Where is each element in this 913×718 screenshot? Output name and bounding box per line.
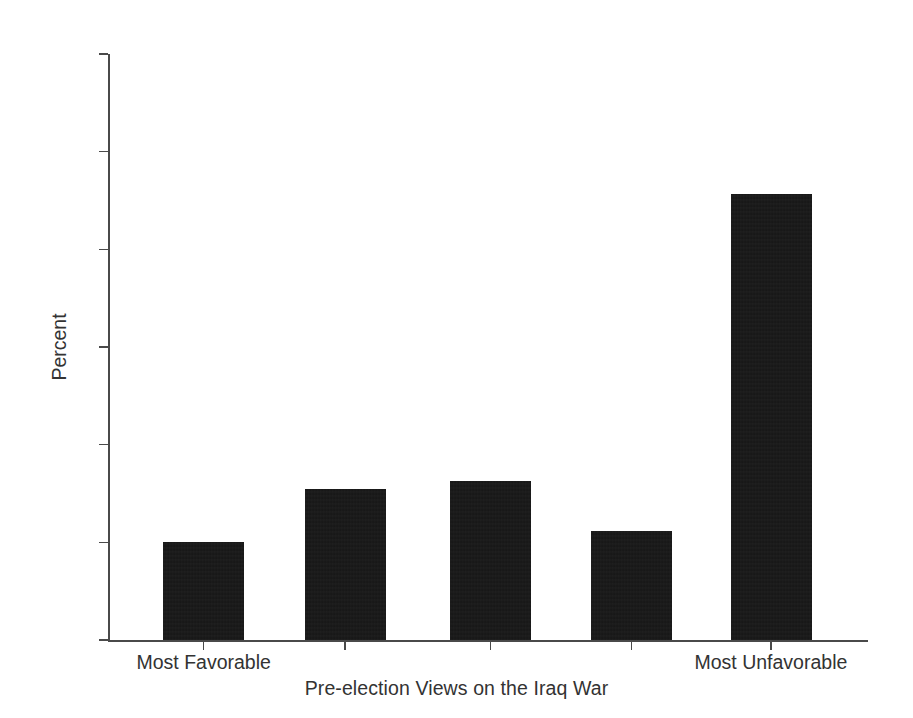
y-axis-tick [99, 346, 108, 348]
y-axis-tick [99, 639, 108, 641]
y-axis-tick [99, 444, 108, 446]
x-axis-tick [631, 641, 633, 650]
category-label: Most Unfavorable [695, 651, 848, 674]
plot-area [109, 54, 868, 640]
x-axis-title: Pre-election Views on the Iraq War [0, 677, 913, 700]
y-axis-tick [99, 53, 108, 55]
category-label: Most Favorable [137, 651, 271, 674]
y-axis-tick [99, 151, 108, 153]
bar [163, 542, 244, 640]
bar [305, 489, 386, 640]
x-axis-tick [344, 641, 346, 650]
y-axis-title: Percent [48, 313, 71, 380]
bar [450, 481, 531, 640]
x-axis-tick [770, 641, 772, 650]
x-axis-line [108, 640, 868, 642]
y-axis-tick [99, 542, 108, 544]
bar-chart: 6050403020100 Most FavorableMost Unfavor… [0, 0, 913, 718]
bar [731, 194, 812, 640]
y-axis-tick [99, 249, 108, 251]
x-axis-tick [203, 641, 205, 650]
bar [591, 531, 672, 640]
x-axis-tick [490, 641, 492, 650]
